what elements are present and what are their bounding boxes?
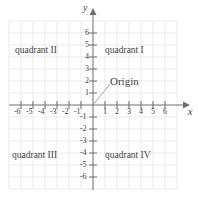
quadrant-4-label: quadrant IV [105,151,151,161]
y-axis [89,15,97,190]
x-tick-label-1: 1 [103,108,107,116]
y-tick-label--5: -5 [80,161,86,169]
origin-label: Origin [110,76,139,87]
y-tick-label--3: -3 [80,137,86,145]
x-axis-name: x [188,107,192,117]
y-tick-label-2: 2 [85,77,89,85]
coordinate-plane-figure: -6 -5 -4 -3 -2 -1 1 2 3 4 5 6 1 2 3 4 5 … [0,0,198,197]
x-tick-label--2: -2 [62,108,68,116]
x-tick-label-5: 5 [151,108,155,116]
x-tick-label--6: -6 [14,108,20,116]
origin-leader-line [93,84,110,105]
x-tick-label--5: -5 [26,108,32,116]
y-tick-label--2: -2 [80,125,86,133]
y-tick-label-4: 4 [85,53,89,61]
x-tick-label--3: -3 [50,108,56,116]
x-axis [9,101,183,109]
quadrant-2-label: quadrant II [15,46,57,56]
y-tick-label-5: 5 [85,41,89,49]
quadrant-3-label: quadrant III [12,151,57,161]
y-tick-label--6: -6 [80,173,86,181]
y-axis-name: y [83,3,87,13]
y-tick-label-1: 1 [85,89,89,97]
y-tick-label-3: 3 [85,65,89,73]
y-tick-label--1: -1 [80,113,86,121]
y-tick-label-6: 6 [85,29,89,37]
x-tick-label-3: 3 [127,108,131,116]
x-tick-label-6: 6 [163,108,167,116]
quadrant-1-label: quadrant I [105,46,144,56]
x-tick-label-2: 2 [115,108,119,116]
coordinate-plane-graphic [0,0,198,197]
y-tick-label--4: -4 [80,149,86,157]
x-tick-label--4: -4 [38,108,44,116]
x-tick-label-4: 4 [139,108,143,116]
y-axis-arrowhead [90,8,97,15]
